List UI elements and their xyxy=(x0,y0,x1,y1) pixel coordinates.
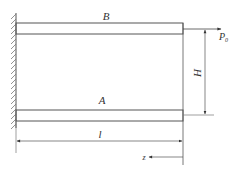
beam-diagram: P0 H B A l z xyxy=(0,0,233,170)
z-axis-label: z xyxy=(141,153,146,162)
length-label: l xyxy=(98,128,101,140)
height-label: H xyxy=(191,68,203,78)
load-label: P0 xyxy=(218,31,228,43)
beam-a xyxy=(16,110,183,121)
beam-b-label: B xyxy=(103,10,110,22)
fixed-wall-support xyxy=(11,13,16,129)
beam-a-label: A xyxy=(98,94,106,106)
beam-b xyxy=(16,23,183,34)
